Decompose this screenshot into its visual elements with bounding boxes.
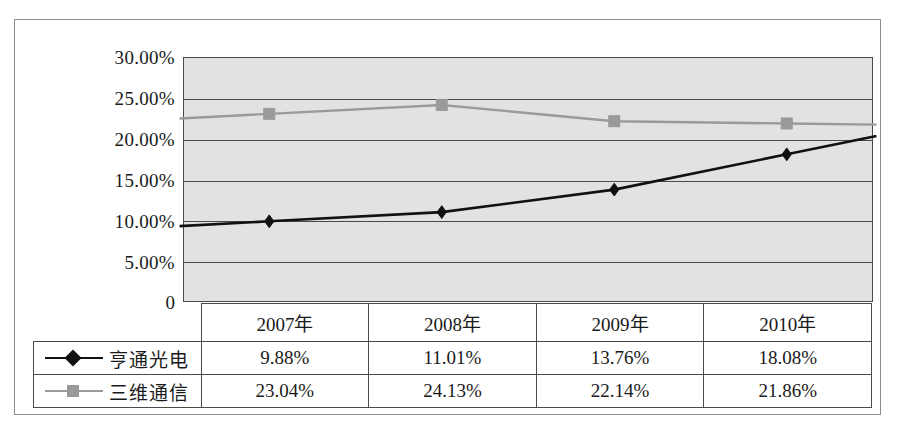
table-header-row: 2007年 2008年 2009年 2010年 (34, 304, 872, 342)
series-polyline (180, 136, 877, 226)
y-tick-label-15: 15.00% (55, 171, 175, 190)
cell-hengtong-2008: 11.01% (369, 342, 537, 375)
data-point-marker (265, 215, 274, 228)
legend-marker-diamond-icon (45, 351, 103, 365)
data-point-marker (610, 183, 619, 196)
series-line-sanwei (180, 99, 877, 129)
table-row: 亨通光电 9.88% 11.01% 13.76% 18.08% (34, 342, 872, 375)
cell-hengtong-2010: 18.08% (704, 342, 872, 375)
y-tick-label-30: 30.00% (55, 48, 175, 67)
cell-sanwei-2010: 21.86% (704, 375, 872, 408)
table-header-2007: 2007年 (201, 304, 369, 342)
cell-sanwei-2007: 23.04% (201, 375, 369, 408)
cell-sanwei-2008: 24.13% (369, 375, 537, 408)
series-layer (183, 57, 873, 302)
table-header-2010: 2010年 (704, 304, 872, 342)
cell-hengtong-2007: 9.88% (201, 342, 369, 375)
data-point-marker (437, 206, 446, 219)
y-tick-label-10: 10.00% (55, 212, 175, 231)
data-table: 2007年 2008年 2009年 2010年 亨通光电 9.88% 11.01… (33, 303, 872, 408)
data-point-marker (781, 118, 792, 129)
table-header-2008: 2008年 (369, 304, 537, 342)
table-header-2009: 2009年 (536, 304, 704, 342)
chart-figure: 30.00% 25.00% 20.00% 15.00% 10.00% 5.00%… (0, 0, 899, 428)
data-point-marker (436, 99, 447, 110)
y-tick-label-25: 25.00% (55, 89, 175, 108)
cell-sanwei-2009: 22.14% (536, 375, 704, 408)
legend-label-sanwei: 三维通信 (109, 378, 189, 405)
legend-item-hengtong: 亨通光电 (34, 342, 202, 375)
y-tick-label-20: 20.00% (55, 130, 175, 149)
data-point-marker (264, 108, 275, 119)
cell-hengtong-2009: 13.76% (536, 342, 704, 375)
legend-label-hengtong: 亨通光电 (109, 345, 189, 372)
data-point-marker (782, 148, 791, 161)
legend-marker-square-icon (45, 384, 103, 398)
table-corner-cell (34, 304, 202, 342)
series-polyline (180, 105, 877, 125)
legend-item-sanwei: 三维通信 (34, 375, 202, 408)
table-row: 三维通信 23.04% 24.13% 22.14% 21.86% (34, 375, 872, 408)
y-tick-label-5: 5.00% (55, 253, 175, 272)
data-point-marker (609, 116, 620, 127)
series-line-hengtong (180, 136, 877, 228)
